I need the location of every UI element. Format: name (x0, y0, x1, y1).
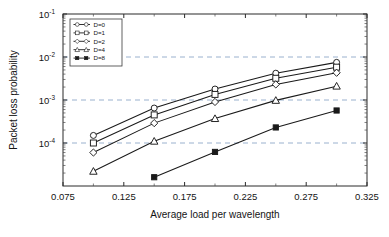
x-tick-label: 0.075 (51, 191, 75, 202)
data-point-d-1 (90, 140, 96, 146)
data-point-d-1 (212, 91, 218, 97)
x-axis-title: Average load per wavelength (150, 209, 279, 220)
y-axis-title: Packet loss probability (8, 50, 19, 150)
data-point-d-1 (151, 112, 157, 118)
x-tick-label: 0.275 (294, 191, 318, 202)
data-point-d-0-legend (84, 23, 88, 27)
data-point-d-1-legend (84, 31, 88, 35)
legend-label-d-8: D=8 (94, 54, 106, 61)
x-tick-label: 0.125 (112, 191, 136, 202)
data-point-d-0 (90, 132, 96, 138)
legend-label-d-2: D=2 (94, 38, 106, 45)
chart-legend: D=0D=1D=2D=4D=8 (70, 19, 122, 66)
data-point-d-8-legend (85, 56, 88, 59)
data-point-d-8 (212, 149, 217, 154)
data-point-d-1-legend (75, 31, 79, 35)
x-tick-label: 0.325 (355, 191, 379, 202)
chart-container: 0.0750.1250.1750.2250.2750.325 10-410-31… (0, 0, 389, 237)
data-point-d-0-legend (75, 23, 79, 27)
data-point-d-8 (334, 108, 339, 113)
legend-label-d-4: D=4 (94, 46, 106, 53)
data-point-d-8 (273, 125, 278, 130)
data-point-d-8-legend (76, 56, 79, 59)
packet-loss-probability-chart: 0.0750.1250.1750.2250.2750.325 10-410-31… (0, 0, 389, 237)
legend-label-d-1: D=1 (94, 29, 106, 36)
x-tick-label: 0.175 (173, 191, 197, 202)
legend-label-d-0: D=0 (94, 21, 106, 28)
x-tick-label: 0.225 (234, 191, 258, 202)
data-point-d-0 (151, 105, 157, 111)
data-point-d-8 (152, 175, 157, 180)
